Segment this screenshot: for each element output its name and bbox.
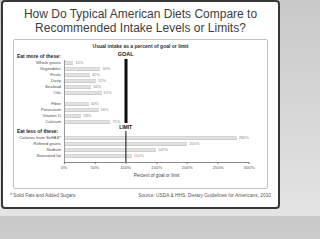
axis-tick: 150% [151, 162, 162, 171]
bar-value: 110% [134, 153, 144, 158]
bar [64, 154, 132, 158]
chart-title: Usual intake as a percent of goal or lim… [16, 43, 265, 51]
bar-category-label: Oils [16, 90, 64, 95]
footnote: * Solid Fats and Added Sugars [10, 193, 75, 198]
bar-value: 200% [189, 141, 199, 146]
bar-value: 28% [83, 113, 91, 118]
axis-tick-mark [187, 162, 188, 165]
bar [64, 79, 96, 83]
bar-category-label: Dairy [16, 78, 64, 83]
axis-tick-label: 0% [61, 165, 67, 170]
bar-track: 75% [64, 119, 249, 125]
bars-eat-more: Whole grains15%Vegetables59%Fruits42%Dai… [16, 60, 265, 125]
bar-value: 40% [91, 101, 99, 106]
axis-tick-mark [249, 162, 250, 165]
axis-tick-label: 300% [244, 165, 255, 170]
bar [64, 108, 99, 112]
bar-value: 61% [104, 90, 112, 95]
axis-tick-mark [64, 162, 65, 165]
group-label-eat-more: Eat more of these: [16, 51, 265, 60]
bar [64, 120, 110, 124]
bar-track: 110% [64, 153, 249, 159]
bar-value: 149% [158, 147, 168, 152]
footer: * Solid Fats and Added Sugars Source: US… [3, 189, 278, 198]
bar-value: 59% [102, 66, 110, 71]
bar-value: 280% [239, 135, 249, 140]
bar [64, 136, 237, 140]
bar-category-label: Calcium [16, 119, 64, 124]
axis-tick: 200% [182, 162, 193, 171]
source-credit: Source: USDA & HHS, Dietary Guidelines f… [138, 193, 271, 198]
bar [64, 91, 102, 95]
bar [64, 61, 73, 65]
axis-tick-label: 250% [213, 165, 224, 170]
bar-value: 44% [93, 84, 101, 89]
bar-row: Saturated fat110% [16, 153, 265, 159]
axis-tick: 100% [120, 162, 131, 171]
bar [64, 85, 91, 89]
bar [64, 142, 187, 146]
bar-category-label: Seafood [16, 84, 64, 89]
bar-value: 52% [98, 78, 106, 83]
x-axis-label: Percent of goal or limit [64, 173, 249, 178]
bar [64, 114, 81, 118]
bars-eat-less: Calories from SoFAS*280%Refined grains20… [16, 135, 265, 159]
group-label-eat-less: Eat less of these: [16, 125, 265, 135]
axis-tick-label: 50% [91, 165, 100, 170]
bar-category-label: Vitamin D [16, 113, 64, 118]
x-axis: 0%50%100%150%200%250%300% [64, 162, 249, 172]
axis-tick: 50% [91, 162, 100, 171]
page-title: How Do Typical American Diets Compare to… [3, 2, 278, 39]
bar-category-label: Refined grains [16, 141, 64, 146]
bar [64, 73, 90, 77]
axis-tick-label: 150% [151, 165, 162, 170]
axis-tick: 300% [244, 162, 255, 171]
bar-value: 56% [101, 107, 109, 112]
bar-value: 15% [75, 60, 83, 65]
chart-panel: Usual intake as a percent of goal or lim… [13, 39, 268, 189]
bar-row: Oils61% [16, 90, 265, 96]
axis-tick-mark [125, 162, 126, 165]
bar [64, 67, 100, 71]
bar-track: 61% [64, 90, 249, 96]
slide: How Do Typical American Diets Compare to… [1, 0, 280, 209]
axis-tick-label: 100% [120, 165, 131, 170]
bar-category-label: Fruits [16, 72, 64, 77]
bar-value: 42% [92, 72, 100, 77]
axis-tick-label: 200% [182, 165, 193, 170]
axis-tick: 0% [61, 162, 67, 171]
bar-category-label: Potassium [16, 107, 64, 112]
axis-tick-mark [218, 162, 219, 165]
bar-row: Calcium75% [16, 119, 265, 125]
bar [64, 148, 156, 152]
bar-value: 75% [112, 119, 120, 124]
bar-category-label: Calories from SoFAS* [16, 135, 64, 140]
axis-tick-mark [94, 162, 95, 165]
bar [64, 102, 89, 106]
bar-category-label: Sodium [16, 147, 64, 152]
axis-tick: 250% [213, 162, 224, 171]
bar-category-label: Fiber [16, 101, 64, 106]
plot-area: GOAL LIMIT Eat more of these: Whole grai… [16, 51, 265, 178]
bar-category-label: Whole grains [16, 60, 64, 65]
bar-category-label: Vegetables [16, 66, 64, 71]
axis-tick-mark [156, 162, 157, 165]
bar-category-label: Saturated fat [16, 153, 64, 158]
